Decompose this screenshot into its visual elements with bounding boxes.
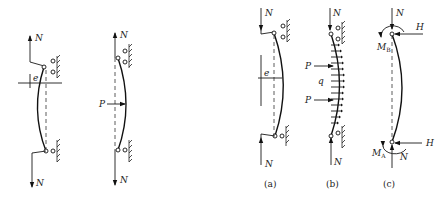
roller-top-1 bbox=[123, 49, 127, 53]
force-label-bottom: N bbox=[35, 178, 45, 188]
force-label-top: N bbox=[395, 8, 405, 18]
hatch-bottom bbox=[286, 125, 289, 143]
offset-arm-bottom bbox=[32, 151, 46, 155]
roller-bottom bbox=[51, 149, 55, 153]
lateral-load-label-2: P bbox=[304, 95, 312, 105]
roller-top-1 bbox=[51, 59, 55, 63]
hatch-top bbox=[342, 21, 345, 44]
roller-top-1 bbox=[281, 24, 285, 28]
roller-bottom bbox=[336, 131, 340, 135]
hinge-top bbox=[42, 65, 46, 69]
panel-eccentric-load: N e N bbox=[18, 33, 62, 188]
hinge-bottom bbox=[390, 140, 394, 144]
panel-a: N e N (a) bbox=[258, 8, 290, 189]
hinge-top bbox=[390, 32, 394, 36]
force-label-bottom: N bbox=[333, 157, 343, 167]
distributed-load-arrows bbox=[331, 44, 345, 125]
offset-arm-top bbox=[30, 62, 44, 66]
force-label-top: N bbox=[332, 8, 342, 18]
roller-bottom bbox=[123, 148, 127, 152]
roller-top-2 bbox=[281, 35, 285, 39]
roller-top-1 bbox=[336, 26, 340, 30]
lateral-load-label-1: P bbox=[304, 61, 312, 71]
hinge-bottom bbox=[329, 134, 333, 138]
hatch-top bbox=[57, 55, 60, 78]
eccentricity-label: e bbox=[264, 68, 269, 78]
hinge-top bbox=[116, 56, 120, 60]
shear-label-bottom: H bbox=[425, 138, 434, 148]
column-curve bbox=[331, 34, 340, 136]
panel-caption-c: (c) bbox=[383, 179, 395, 189]
hatch-top bbox=[129, 44, 132, 67]
force-label-bottom: N bbox=[264, 159, 274, 169]
hatch-top bbox=[287, 19, 290, 42]
panel-caption-a: (a) bbox=[264, 179, 276, 189]
hinge-top bbox=[329, 32, 333, 36]
hinge-bottom bbox=[116, 148, 120, 152]
panel-c: N H MB H N MA (c) bbox=[371, 8, 434, 189]
panel-b: N P q P N (b) bbox=[304, 8, 345, 189]
column-curve bbox=[37, 67, 46, 151]
lateral-load-label: P bbox=[98, 99, 106, 109]
moment-label-top: MB bbox=[376, 42, 391, 53]
panel-lateral-point-load: N N P bbox=[98, 30, 132, 185]
offset-arm-bottom bbox=[261, 134, 275, 138]
force-label-bottom: N bbox=[119, 175, 129, 185]
force-label-bottom: N bbox=[399, 152, 409, 162]
eccentricity-label: e bbox=[33, 73, 38, 83]
shear-label-top: H bbox=[415, 22, 424, 32]
force-label-top: N bbox=[264, 8, 274, 18]
column-curve bbox=[274, 33, 283, 136]
force-label-top: N bbox=[119, 30, 129, 40]
distributed-load-label: q bbox=[318, 76, 324, 86]
hatch-bottom bbox=[57, 139, 60, 162]
column-curve bbox=[392, 34, 402, 142]
roller-top-2 bbox=[123, 60, 127, 64]
hatch-bottom bbox=[342, 125, 345, 148]
roller-bottom bbox=[280, 134, 284, 138]
roller-top-2 bbox=[336, 37, 340, 41]
structural-diagram: N e N N N bbox=[0, 0, 442, 202]
hinge-top bbox=[272, 31, 276, 35]
hatch-bottom bbox=[129, 140, 132, 162]
roller-top-2 bbox=[51, 70, 55, 74]
panel-caption-b: (b) bbox=[326, 179, 339, 189]
force-label-top: N bbox=[34, 33, 44, 43]
